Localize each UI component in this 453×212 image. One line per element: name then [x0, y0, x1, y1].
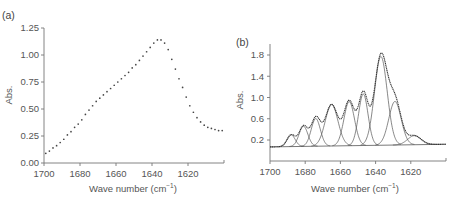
data-point [113, 84, 115, 86]
x-tick-label: 1700 [33, 168, 54, 179]
data-point [128, 71, 130, 73]
y-tick-label: 0.75 [21, 76, 40, 87]
y-tick-label: 0.6 [251, 113, 264, 124]
data-point [59, 142, 61, 144]
data-point [106, 91, 108, 93]
data-point [74, 127, 76, 129]
data-point [135, 64, 137, 66]
x-tick-label: 1640 [365, 166, 386, 177]
x-tick-label: 1680 [295, 166, 316, 177]
panel-b-baseline [270, 144, 446, 147]
panel-a-x-axis-title: Wave number (cm−1) [89, 182, 177, 194]
data-point [189, 105, 191, 107]
data-point [88, 109, 90, 111]
x-tick-label: 1700 [259, 166, 280, 177]
data-point [149, 47, 151, 49]
component-curve [301, 119, 330, 147]
y-tick-label: 0.25 [21, 130, 40, 141]
panel-a-x-ticks: 17001680166016401620 [33, 163, 198, 179]
data-point [121, 78, 123, 80]
data-point [63, 138, 65, 140]
panel-b-axes [270, 44, 446, 161]
y-tick-label: 0.50 [21, 103, 40, 114]
panel-b-envelope-curve [270, 53, 446, 147]
panel-b-y-ticks: 0.20.61.01.41.8 [251, 49, 270, 145]
component-curve [361, 57, 401, 145]
data-point [221, 130, 223, 132]
data-point [196, 117, 198, 119]
data-point [139, 60, 141, 62]
panel-a-y-ticks: 0.000.250.500.751.001.25 [21, 22, 45, 168]
panel-b: (b) 0.20.61.01.41.8 17001680166016401620… [234, 36, 446, 194]
x-tick-label: 1620 [177, 168, 198, 179]
data-point [131, 67, 133, 69]
y-tick-label: 1.00 [21, 49, 40, 60]
panel-b-x-axis-title: Wave number (cm−1) [311, 182, 399, 194]
data-point [164, 42, 166, 44]
y-tick-label: 1.25 [21, 22, 40, 33]
data-point [193, 111, 195, 113]
data-point [77, 123, 79, 125]
panel-a-y-axis-title: Abs. [3, 85, 14, 104]
data-point [117, 81, 119, 83]
data-point [110, 88, 112, 90]
data-point [207, 127, 209, 129]
x-tick-label: 1660 [330, 166, 351, 177]
data-point [211, 128, 213, 130]
x-tick-label: 1640 [141, 168, 162, 179]
x-tick-label: 1620 [400, 166, 421, 177]
x-tick-label: 1680 [69, 168, 90, 179]
data-point [124, 75, 126, 77]
data-point [182, 87, 184, 89]
panel-a: (a) 0.000.250.500.751.001.25 17001680166… [2, 9, 224, 194]
panel-a-data-points [45, 39, 223, 154]
component-curve [348, 94, 378, 145]
data-point [153, 42, 155, 44]
data-point [70, 131, 72, 133]
data-point [142, 55, 144, 57]
data-point [146, 51, 148, 53]
component-curve [278, 135, 304, 147]
panel-b-y-axis-title: Abs. [234, 90, 245, 109]
panel-b-label: (b) [236, 36, 249, 48]
data-point [49, 150, 51, 152]
figure: (a) 0.000.250.500.751.001.25 17001680166… [0, 0, 453, 212]
data-point [67, 134, 69, 136]
panel-a-label: (a) [2, 9, 15, 21]
data-point [203, 124, 205, 126]
data-point [178, 78, 180, 80]
data-point [185, 96, 187, 98]
data-point [160, 39, 162, 41]
data-point [214, 129, 216, 131]
data-point [103, 94, 105, 96]
data-point [56, 145, 58, 147]
data-point [52, 147, 54, 149]
x-tick-label: 1660 [105, 168, 126, 179]
data-point [200, 121, 202, 123]
y-tick-label: 0.00 [21, 157, 40, 168]
data-point [95, 101, 97, 103]
panel-a-axes [44, 28, 224, 163]
data-point [45, 152, 47, 154]
panel-b-x-ticks: 17001680166016401620 [259, 161, 421, 177]
component-curve [332, 102, 365, 146]
panel-b-component-curves [278, 57, 435, 147]
data-point [175, 68, 177, 70]
data-point [171, 58, 173, 60]
data-point [99, 97, 101, 99]
y-tick-label: 1.8 [251, 49, 264, 60]
data-point [218, 130, 220, 132]
data-point [92, 105, 94, 107]
y-tick-label: 1.0 [251, 92, 264, 103]
data-point [81, 119, 83, 121]
y-tick-label: 1.4 [251, 71, 264, 82]
data-point [85, 114, 87, 116]
y-tick-label: 0.2 [251, 134, 264, 145]
data-point [167, 49, 169, 51]
data-point [157, 39, 159, 41]
